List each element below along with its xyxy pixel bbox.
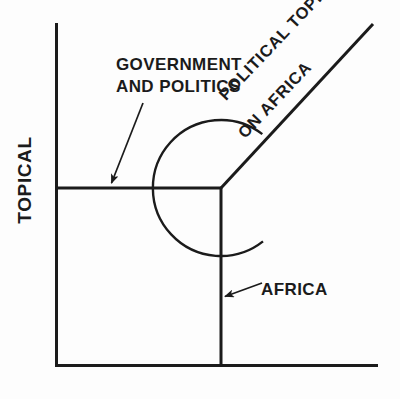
political-topic-ray	[221, 24, 373, 188]
africa-arrow	[225, 283, 262, 297]
venn-quadrant-diagram: TOPICAL GOVERNMENTAND POLITICS AFRICA PO…	[0, 0, 400, 399]
y-axis-label: TOPICAL	[14, 130, 36, 230]
government-and-politics-label-line1: GOVERNMENT	[116, 55, 242, 74]
government-politics-arrow	[112, 103, 144, 183]
africa-label: AFRICA	[261, 280, 328, 300]
